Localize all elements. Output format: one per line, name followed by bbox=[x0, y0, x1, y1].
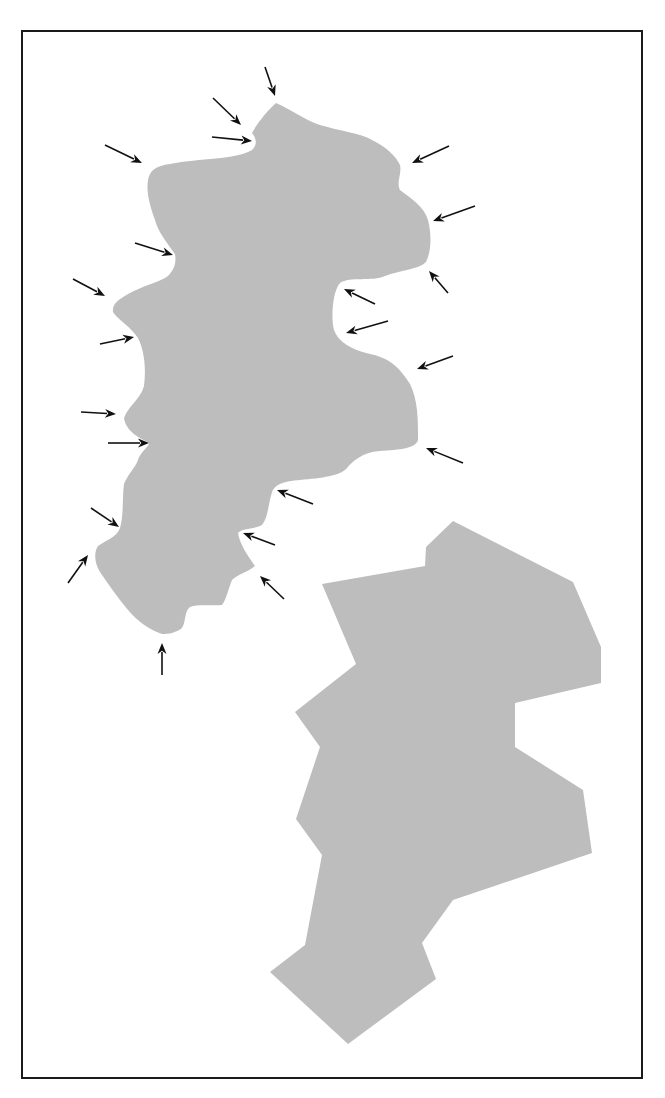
pointer-arrow-icon bbox=[243, 533, 275, 545]
pointer-arrow-icon bbox=[68, 555, 88, 583]
pointer-arrow-icon bbox=[81, 409, 116, 418]
pointer-arrow-icon bbox=[73, 279, 105, 296]
pointer-arrow-icon bbox=[412, 146, 449, 163]
diagram-canvas bbox=[0, 0, 665, 1098]
pointer-arrow-icon bbox=[433, 206, 475, 222]
pointer-arrow-icon bbox=[426, 448, 463, 463]
pointer-arrow-icon bbox=[158, 643, 167, 675]
pointer-arrow-icon bbox=[91, 508, 119, 527]
pointer-arrow-icon bbox=[417, 356, 453, 369]
pointer-arrow-icon bbox=[105, 145, 142, 163]
curved-region-shape bbox=[95, 103, 430, 634]
pointer-arrow-icon bbox=[100, 335, 134, 344]
pointer-arrow-icon bbox=[265, 67, 276, 96]
pointer-arrow-icon bbox=[213, 98, 241, 125]
pointer-arrow-icon bbox=[212, 135, 252, 144]
pointer-arrow-icon bbox=[344, 289, 375, 304]
pointer-arrow-icon bbox=[108, 439, 149, 448]
pointer-arrow-icon bbox=[346, 321, 388, 334]
pointer-arrow-icon bbox=[277, 490, 313, 504]
polygonal-region-shape bbox=[270, 521, 601, 1044]
pointer-arrow-icon bbox=[260, 576, 284, 599]
pointer-arrow-icon bbox=[429, 271, 448, 293]
pointer-arrow-icon bbox=[135, 243, 173, 256]
